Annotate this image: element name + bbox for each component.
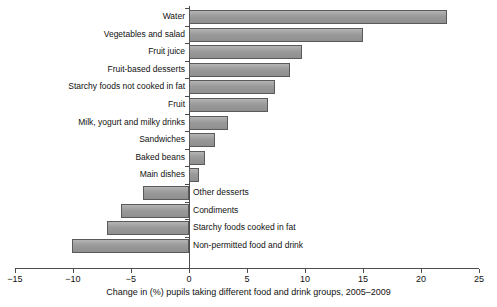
x-axis-tick-label: 20 xyxy=(416,274,426,284)
bar xyxy=(189,63,290,77)
plot-area: WaterVegetables and saladFruit juiceFrui… xyxy=(0,0,497,307)
x-axis-tick-label: −10 xyxy=(65,274,80,284)
category-label: Non-permitted food and drink xyxy=(193,238,303,253)
x-axis-title: Change in (%) pupils taking different fo… xyxy=(0,287,497,297)
bar xyxy=(121,204,189,218)
bar xyxy=(189,10,447,24)
x-axis-tick xyxy=(421,269,422,273)
x-axis-tick-label: 15 xyxy=(358,274,368,284)
x-axis-tick-label: −5 xyxy=(126,274,136,284)
bar xyxy=(189,133,215,147)
y-axis-tick xyxy=(185,166,189,167)
x-axis-tick xyxy=(131,269,132,273)
bar xyxy=(72,239,189,253)
bar xyxy=(189,151,205,165)
category-label: Fruit xyxy=(168,97,185,112)
y-axis-tick xyxy=(185,26,189,27)
category-label: Water xyxy=(163,9,185,24)
y-axis-tick xyxy=(185,184,189,185)
x-axis-tick-label: 25 xyxy=(474,274,484,284)
y-axis-tick xyxy=(185,114,189,115)
x-axis-tick xyxy=(305,269,306,273)
bar xyxy=(189,80,275,94)
bar xyxy=(189,45,302,59)
bar xyxy=(107,221,189,235)
y-axis-tick xyxy=(185,96,189,97)
category-label: Starchy foods not cooked in fat xyxy=(68,79,185,94)
x-axis-tick xyxy=(189,269,190,273)
category-label: Condiments xyxy=(193,203,238,218)
category-label: Vegetables and salad xyxy=(104,27,185,42)
x-axis-tick-label: 5 xyxy=(244,274,249,284)
category-label: Milk, yogurt and milky drinks xyxy=(78,115,185,130)
category-label: Starchy foods cooked in fat xyxy=(193,220,296,235)
category-label: Fruit juice xyxy=(148,44,185,59)
bar-chart: WaterVegetables and saladFruit juiceFrui… xyxy=(0,0,497,307)
x-axis-tick xyxy=(363,269,364,273)
x-axis-tick-label: 10 xyxy=(300,274,310,284)
y-axis-tick xyxy=(185,43,189,44)
bar xyxy=(189,98,268,112)
x-axis-tick xyxy=(15,269,16,273)
category-label: Sandwiches xyxy=(139,132,185,147)
y-axis-tick xyxy=(185,131,189,132)
category-label: Fruit-based desserts xyxy=(108,62,185,77)
y-axis-tick xyxy=(185,8,189,9)
x-axis-tick xyxy=(479,269,480,273)
bar xyxy=(189,168,199,182)
x-axis-tick xyxy=(73,269,74,273)
y-axis-tick xyxy=(185,61,189,62)
bar xyxy=(189,116,228,130)
category-label: Baked beans xyxy=(135,150,185,165)
y-axis-tick xyxy=(185,237,189,238)
y-axis-tick xyxy=(185,202,189,203)
x-axis-tick xyxy=(247,269,248,273)
y-axis-tick xyxy=(185,149,189,150)
category-label: Other desserts xyxy=(193,185,249,200)
bar xyxy=(143,186,189,200)
y-axis-tick xyxy=(185,219,189,220)
x-axis-tick-label: 0 xyxy=(186,274,191,284)
x-axis-tick-label: −15 xyxy=(7,274,22,284)
category-label: Main dishes xyxy=(140,167,185,182)
y-axis-tick xyxy=(185,78,189,79)
bar xyxy=(189,28,363,42)
